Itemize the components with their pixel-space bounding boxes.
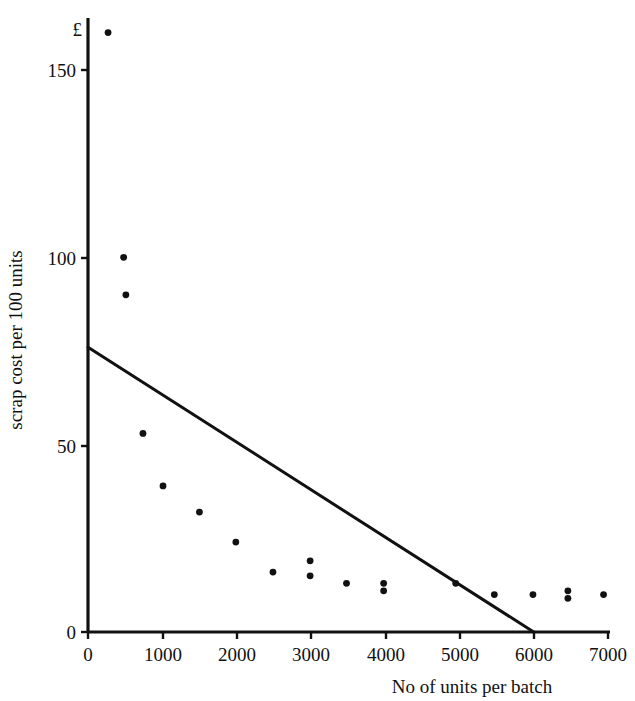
x-tick-label-4000: 4000: [367, 644, 405, 665]
trend-line-group: [88, 347, 534, 632]
x-tick-label-5000: 5000: [441, 644, 479, 665]
data-point: [307, 572, 314, 579]
data-point: [564, 595, 571, 602]
data-point: [105, 29, 112, 36]
data-point: [343, 580, 350, 587]
y-axis-tick-labels: 150 100 50 0: [48, 60, 77, 643]
x-axis-tick-labels: 0 1000 2000 3000 4000 5000 6000 7000: [83, 644, 627, 665]
y-tick-label-50: 50: [57, 436, 76, 457]
x-axis-title: No of units per batch: [392, 676, 553, 697]
x-tick-label-2000: 2000: [218, 644, 256, 665]
trend-line: [88, 347, 534, 632]
data-point: [600, 591, 607, 598]
data-point: [140, 430, 147, 437]
data-points-group: [105, 29, 607, 602]
x-tick-label-7000: 7000: [589, 644, 627, 665]
data-point: [491, 591, 498, 598]
scatter-chart: 150 100 50 0 £ 0 1000 2000 3000 4000 500…: [0, 0, 635, 701]
y-tick-label-0: 0: [67, 622, 77, 643]
chart-canvas: 150 100 50 0 £ 0 1000 2000 3000 4000 500…: [0, 0, 635, 701]
data-point: [232, 539, 239, 546]
data-point: [270, 569, 277, 576]
data-point: [307, 557, 314, 564]
data-point: [120, 254, 127, 261]
data-point: [452, 580, 459, 587]
data-point: [196, 509, 203, 516]
data-point: [160, 482, 167, 489]
x-tick-label-6000: 6000: [515, 644, 553, 665]
y-axis-title: scrap cost per 100 units: [5, 250, 26, 429]
y-tick-label-100: 100: [48, 248, 77, 269]
data-point: [122, 291, 129, 298]
axes-group: [88, 18, 610, 632]
currency-symbol-label: £: [73, 19, 83, 40]
x-tick-label-0: 0: [83, 644, 93, 665]
data-point: [564, 587, 571, 594]
x-tick-label-3000: 3000: [292, 644, 330, 665]
data-point: [530, 591, 537, 598]
y-tick-label-150: 150: [48, 60, 77, 81]
x-tick-label-1000: 1000: [144, 644, 182, 665]
data-point: [380, 580, 387, 587]
data-point: [380, 587, 387, 594]
